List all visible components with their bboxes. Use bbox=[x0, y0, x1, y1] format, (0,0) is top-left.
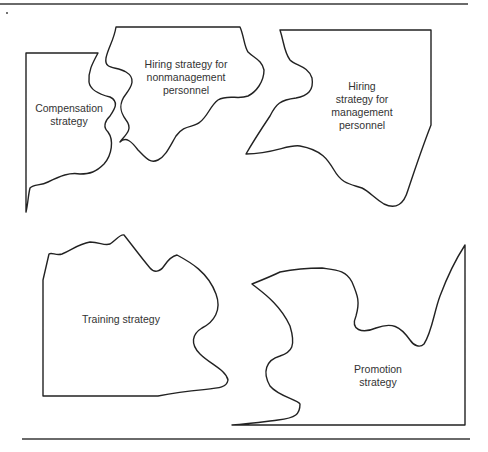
label-promotion: Promotion strategy bbox=[338, 363, 418, 389]
label-training: Training strategy bbox=[66, 313, 176, 326]
label-hiring-nonmanagement: Hiring strategy for nonmanagement person… bbox=[136, 58, 236, 97]
label-compensation: Compensation strategy bbox=[24, 102, 114, 128]
region-compensation bbox=[26, 53, 115, 212]
label-hiring-management: Hiring strategy for management personnel bbox=[322, 80, 402, 132]
region-promotion bbox=[232, 245, 465, 425]
